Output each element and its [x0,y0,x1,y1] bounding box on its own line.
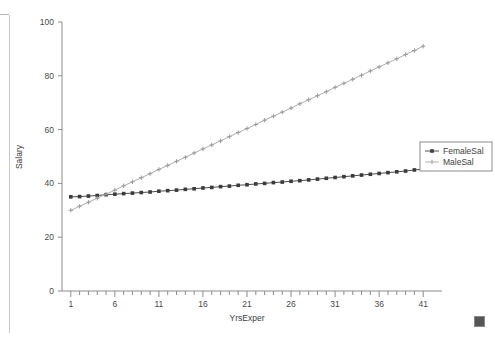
data-point-malesal [395,57,399,61]
data-point-malesal [289,106,293,110]
data-point-malesal [157,167,161,171]
data-point-femalesal [413,168,417,172]
data-point-malesal [86,200,90,204]
x-tick-label: 26 [286,299,296,309]
y-axis-title: Salary [14,144,24,169]
data-point-femalesal [87,194,91,198]
data-point-malesal [218,139,222,143]
document-edge-line [9,15,10,333]
corner-handle[interactable] [474,316,485,327]
data-point-femalesal [157,189,161,193]
y-tick-label: 80 [45,71,55,81]
data-point-malesal [210,143,214,147]
x-tick-label: 11 [154,299,163,309]
x-axis: 1611162126313641 [62,291,442,309]
data-point-malesal [421,44,425,48]
data-point-malesal [271,114,275,118]
data-point-femalesal [228,184,232,188]
data-point-femalesal [236,183,240,187]
data-point-malesal [315,94,319,98]
data-point-malesal [298,102,302,106]
data-point-malesal [192,151,196,155]
legend-label-malesal[interactable]: MaleSal [443,157,474,167]
data-point-femalesal [254,182,258,186]
data-point-femalesal [289,179,293,183]
data-point-femalesal [351,174,355,178]
data-point-malesal [183,155,187,159]
data-point-malesal [254,122,258,126]
document-top-mark [0,14,9,15]
data-point-malesal [377,65,381,69]
data-point-femalesal [404,169,408,173]
data-point-malesal [69,208,73,212]
data-point-femalesal [139,191,143,195]
x-tick-label: 21 [242,299,252,309]
y-tick-label: 60 [45,125,55,135]
y-axis: 020406080100 [40,17,62,296]
data-point-malesal [236,130,240,134]
data-point-femalesal [148,190,152,194]
data-point-femalesal [377,172,381,176]
x-tick-label: 16 [198,299,208,309]
data-point-femalesal [298,179,302,183]
data-point-femalesal [175,188,179,192]
data-point-malesal [201,147,205,151]
data-point-femalesal [184,188,188,192]
data-point-femalesal [113,192,117,196]
data-point-malesal [166,163,170,167]
data-point-malesal [306,98,310,102]
data-point-femalesal [342,175,346,179]
data-point-malesal [174,159,178,163]
legend-marker-femalesal [430,149,434,153]
data-point-femalesal [307,178,311,182]
data-point-femalesal [272,181,276,185]
data-point-femalesal [324,176,328,180]
data-point-femalesal [333,176,337,180]
y-tick-label: 0 [49,286,54,296]
data-point-femalesal [245,183,249,187]
data-point-malesal [121,184,125,188]
x-tick-label: 31 [330,299,340,309]
data-point-malesal [359,73,363,77]
data-point-femalesal [316,177,320,181]
data-point-femalesal [210,186,214,190]
data-point-malesal [386,61,390,65]
legend-label-femalesal[interactable]: FemaleSal [443,146,484,156]
data-series-group [69,44,426,212]
data-point-malesal [403,52,407,56]
data-point-malesal [368,69,372,73]
data-point-malesal [324,89,328,93]
chart-container: 020406080100 1611162126313641 FemaleSalM… [0,0,495,338]
data-point-femalesal [192,187,196,191]
x-tick-label: 41 [418,299,428,309]
data-point-malesal [113,188,117,192]
data-point-malesal [77,204,81,208]
data-point-femalesal [369,172,373,176]
data-point-malesal [139,176,143,180]
data-point-femalesal [360,173,364,177]
data-point-femalesal [122,192,126,196]
data-point-malesal [130,180,134,184]
chart-legend[interactable]: FemaleSalMaleSal [420,142,492,171]
data-point-femalesal [201,186,205,190]
data-point-femalesal [386,171,390,175]
data-point-malesal [262,118,266,122]
x-tick-label: 36 [374,299,384,309]
data-point-malesal [342,81,346,85]
data-point-malesal [333,85,337,89]
x-tick-label: 1 [68,299,73,309]
data-point-malesal [412,48,416,52]
x-tick-label: 6 [112,299,117,309]
data-point-femalesal [69,195,73,199]
data-point-femalesal [280,180,284,184]
data-point-femalesal [395,170,399,174]
y-tick-label: 40 [45,178,55,188]
data-point-femalesal [219,185,223,189]
line-chart: 020406080100 1611162126313641 FemaleSalM… [0,0,495,338]
y-tick-label: 20 [45,232,55,242]
x-axis-title: YrsExper [230,313,265,323]
data-point-femalesal [131,191,135,195]
data-point-femalesal [78,195,82,199]
data-point-malesal [280,110,284,114]
data-point-femalesal [166,189,170,193]
